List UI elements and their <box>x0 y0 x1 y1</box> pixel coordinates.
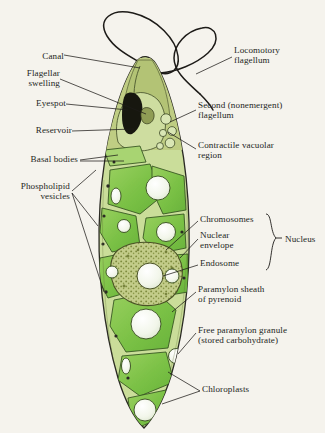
label-chromosomes: Chromosomes <box>200 214 254 224</box>
second-flagellum-path <box>160 28 216 94</box>
phospholipid-vesicle <box>180 230 183 233</box>
flagellar-swelling <box>141 108 154 124</box>
euglena-diagram: Canal Flagellar swelling Eyespot Reservo… <box>0 0 325 433</box>
label-nuclear-envelope: Nuclear envelope <box>200 230 234 251</box>
vacuole <box>161 114 171 124</box>
label-nucleus-group: Nucleus <box>285 234 316 244</box>
label-second-flagellum: Second (nonemergent) flagellum <box>198 100 282 121</box>
label-reservoir: Reservoir <box>0 125 72 135</box>
label-endosome: Endosome <box>200 258 239 268</box>
label-flagellar-swelling: Flagellar swelling <box>0 68 60 89</box>
endosome <box>137 263 163 289</box>
paramylon-granule <box>106 266 118 278</box>
paramylon-granule <box>111 188 121 204</box>
vacuole <box>165 138 175 148</box>
label-free-paramylon-granule: Free paramylon granule (stored carbohydr… <box>198 325 287 346</box>
paramylon-granule <box>146 176 170 200</box>
label-paramylon-sheath: Paramylon sheath of pyrenoid <box>198 284 265 305</box>
phospholipid-vesicle <box>106 184 109 187</box>
nucleus-brace <box>266 214 282 270</box>
paramylon-granule <box>122 358 131 374</box>
label-canal: Canal <box>0 51 64 61</box>
vacuole <box>157 143 164 150</box>
phospholipid-vesicle <box>114 334 117 337</box>
vacuole <box>159 129 166 136</box>
label-locomotory-flagellum: Locomotory flagellum <box>234 45 280 66</box>
paramylon-granule <box>165 269 179 283</box>
label-phospholipid-vesicles: Phospholipid vesicles <box>0 181 70 202</box>
label-chloroplasts: Chloroplasts <box>202 384 249 394</box>
label-basal-bodies: Basal bodies <box>0 154 78 164</box>
paramylon-granule <box>118 220 131 233</box>
leader-locomotory <box>196 57 232 74</box>
label-eyespot: Eyespot <box>0 98 66 108</box>
leader-canal <box>64 55 140 68</box>
label-contractile-vacuolar-region: Contractile vacuolar region <box>198 140 274 161</box>
paramylon-granule <box>157 223 176 242</box>
phospholipid-vesicle <box>126 376 129 379</box>
phospholipid-vesicle <box>101 242 104 245</box>
paramylon-granule <box>131 309 161 339</box>
